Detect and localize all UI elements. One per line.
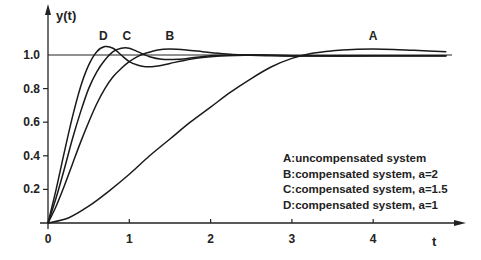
curve-label-b: B [166, 29, 175, 43]
y-tick-label: 1.0 [23, 48, 40, 62]
y-axis-arrow-icon [45, 4, 51, 15]
y-tick-label: 0.4 [23, 149, 40, 163]
curve-label-a: A [369, 29, 378, 43]
y-tick-label: 0.8 [23, 82, 40, 96]
legend-item-d: D:compensated system, a=1 [283, 198, 448, 214]
step-response-chart: 012340.20.40.60.81.0 ABCD y(t) t [0, 0, 481, 260]
x-axis-title: t [432, 234, 437, 249]
x-tick-label: 2 [207, 232, 214, 246]
curve-label-c: C [123, 29, 132, 43]
x-tick-label: 0 [45, 232, 52, 246]
legend-item-b: B:compensated system, a=2 [283, 167, 448, 183]
legend-item-a: A:uncompensated system [283, 151, 448, 167]
x-tick-label: 3 [289, 232, 296, 246]
legend: A:uncompensated system B:compensated sys… [283, 151, 448, 213]
y-tick-label: 0.2 [23, 182, 40, 196]
x-axis-arrow-icon [454, 220, 466, 226]
curve-label-d: D [99, 29, 108, 43]
ticks: 012340.20.40.60.81.0 [23, 48, 377, 246]
y-tick-label: 0.6 [23, 115, 40, 129]
x-tick-label: 1 [126, 232, 133, 246]
x-tick-label: 4 [370, 232, 377, 246]
legend-item-c: C:compensated system, a=1.5 [283, 182, 448, 198]
y-axis-title: y(t) [56, 8, 76, 23]
curve-labels: ABCD [99, 29, 378, 43]
